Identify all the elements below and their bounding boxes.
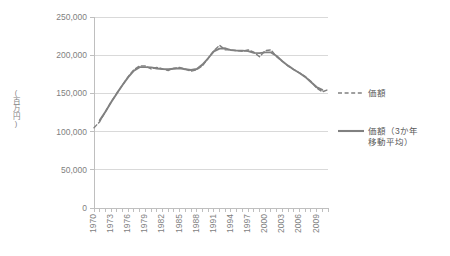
series-line	[100, 48, 323, 120]
x-tick-label: 1979	[140, 214, 149, 233]
x-tick-label: 2006	[294, 214, 303, 233]
x-tick-label: 1994	[226, 214, 235, 233]
y-tick-label: 200,000	[0, 50, 87, 60]
x-tick-label: 1985	[175, 214, 184, 233]
x-tick-label: 1997	[243, 214, 252, 233]
x-tick-label: 1991	[209, 214, 218, 233]
legend-label-1: 価額	[368, 88, 386, 99]
series-line	[94, 45, 328, 128]
y-tick-label: 0	[0, 203, 87, 213]
x-tick-label: 1976	[123, 214, 132, 233]
y-tick-label: 250,000	[0, 12, 87, 22]
y-tick-label: 100,000	[0, 127, 87, 137]
chart-container: (百万円) 050,000100,000150,000200,000250,00…	[0, 0, 450, 256]
x-tick-label: 2003	[277, 214, 286, 233]
x-tick-label: 2000	[260, 214, 269, 233]
x-tick-label: 1973	[106, 214, 115, 233]
x-tick-label: 1988	[192, 214, 201, 233]
x-tick-label: 1982	[157, 214, 166, 233]
legend-label-2: 価額（3か年 移動平均）	[368, 126, 418, 149]
x-tick-label: 2009	[312, 214, 321, 233]
y-tick-label: 150,000	[0, 88, 87, 98]
y-tick-label: 50,000	[0, 165, 87, 175]
x-tick-label: 1970	[89, 214, 98, 233]
